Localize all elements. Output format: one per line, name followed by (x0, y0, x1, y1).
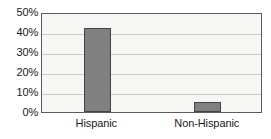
y-axis-tick-label: 10% (0, 87, 38, 98)
y-axis-tick-label: 30% (0, 47, 38, 58)
plot-area (41, 13, 262, 113)
y-axis-tick-label: 50% (0, 7, 38, 18)
bar (84, 28, 111, 112)
x-axis: HispanicNon-Hispanic (41, 117, 262, 137)
bars-layer (42, 14, 261, 112)
x-axis-tick-label: Non-Hispanic (152, 117, 263, 130)
y-axis: 0%10%20%30%40%50% (0, 0, 38, 139)
y-axis-tick-label: 40% (0, 27, 38, 38)
x-axis-tick-label: Hispanic (41, 117, 152, 130)
bar (194, 102, 221, 112)
y-axis-tick-label: 0% (0, 107, 38, 118)
bar-chart: 0%10%20%30%40%50% HispanicNon-Hispanic (0, 0, 271, 139)
y-axis-tick-label: 20% (0, 67, 38, 78)
